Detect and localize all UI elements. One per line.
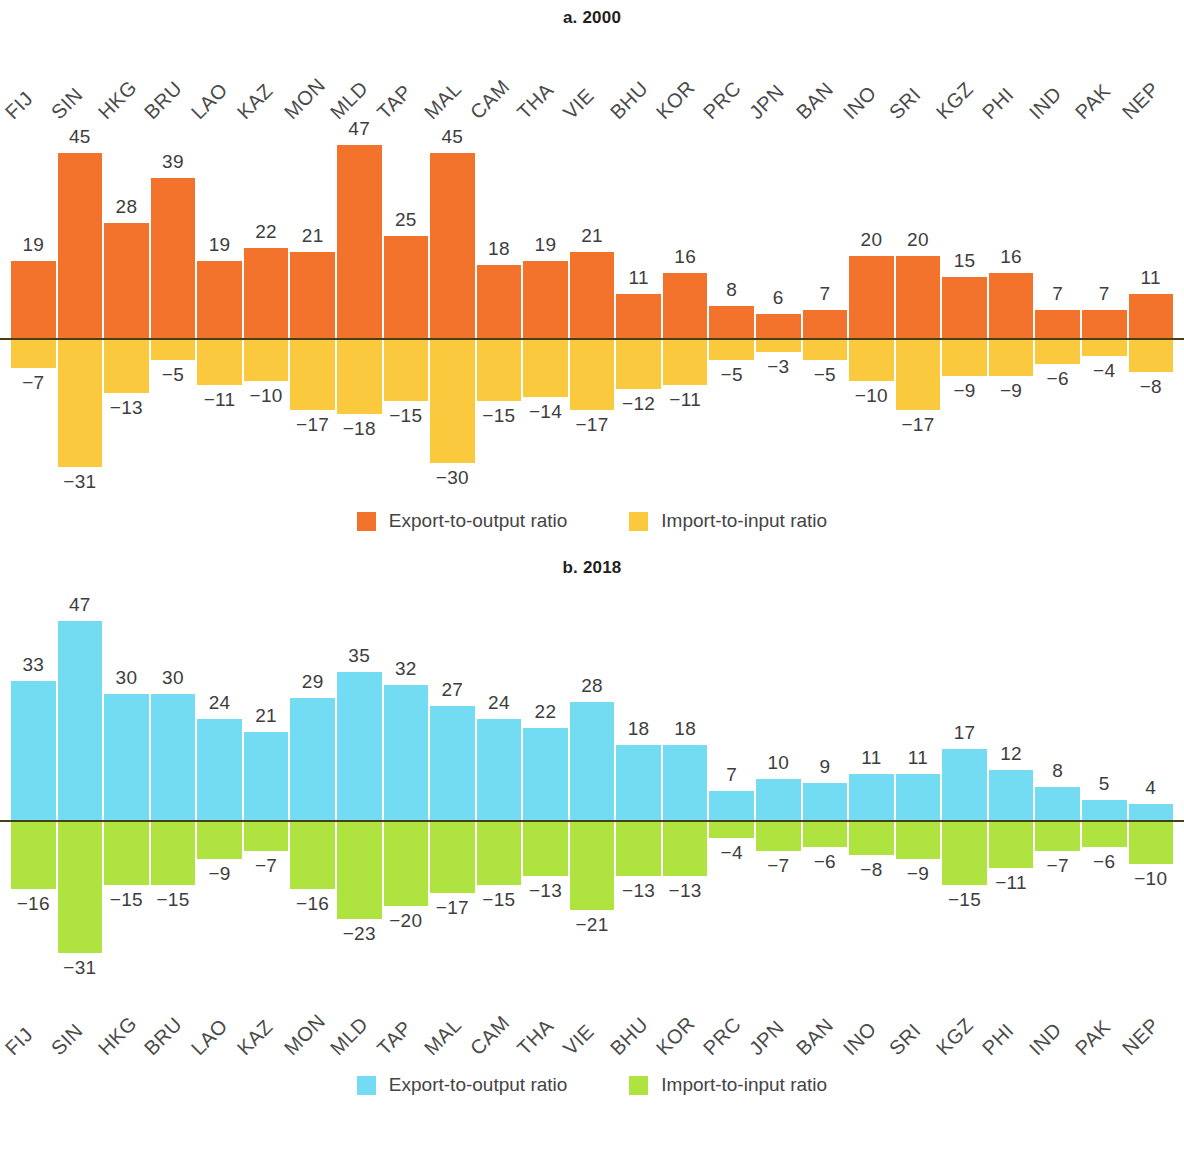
- bar-value-label: 22: [535, 701, 557, 723]
- category-label: KOR: [652, 1012, 700, 1060]
- bar-export-to-output: [337, 145, 382, 339]
- bar-export-to-output: [11, 261, 56, 340]
- panel-b-category-axis: FIJSINHKGBRULAOKAZMONMLDTAPMALCAMTHAVIEB…: [0, 974, 1184, 1060]
- bar-export-to-output: [58, 621, 103, 821]
- bar-value-label: −18: [343, 418, 376, 440]
- bar-value-label: −4: [721, 842, 743, 864]
- bar-import-to-input: [104, 339, 149, 393]
- bar-group: 27−17: [429, 600, 476, 970]
- bar-group: 25−15: [383, 124, 430, 484]
- bar-value-label: 8: [1052, 760, 1063, 782]
- bar-value-label: −17: [436, 897, 469, 919]
- bar-value-label: 28: [116, 196, 138, 218]
- bar-import-to-input: [11, 821, 56, 889]
- bar-value-label: 30: [162, 667, 184, 689]
- bar-value-label: −21: [575, 914, 608, 936]
- bar-export-to-output: [849, 256, 894, 339]
- bar-import-to-input: [942, 339, 987, 376]
- category-label: PAK: [1071, 1015, 1116, 1060]
- bar-export-to-output: [709, 306, 754, 339]
- bar-group: 7−5: [802, 124, 849, 484]
- bar-value-label: 7: [819, 283, 830, 305]
- category-label: BAN: [792, 78, 838, 124]
- bar-import-to-input: [942, 821, 987, 885]
- bar-import-to-input: [663, 821, 708, 876]
- bar-group: 28−13: [103, 124, 150, 484]
- bar-group: 11−8: [1128, 124, 1175, 484]
- panel-b-bars: 33−1647−3130−1530−1524−921−729−1635−2332…: [0, 600, 1184, 970]
- bar-value-label: 29: [302, 671, 324, 693]
- bar-value-label: 6: [773, 287, 784, 309]
- category-label: IND: [1025, 1018, 1067, 1060]
- bar-group: 24−9: [196, 600, 243, 970]
- bar-group: 11−8: [848, 600, 895, 970]
- category-label: MON: [280, 74, 330, 124]
- bar-export-to-output: [430, 153, 475, 339]
- bar-value-label: 21: [581, 225, 603, 247]
- bar-import-to-input: [430, 339, 475, 463]
- bar-import-to-input: [756, 339, 801, 351]
- bar-group: 47−18: [336, 124, 383, 484]
- bar-export-to-output: [523, 728, 568, 822]
- bar-import-to-input: [896, 821, 941, 859]
- bar-export-to-output: [989, 770, 1034, 821]
- legend-item: Import-to-input ratio: [629, 510, 827, 532]
- bar-export-to-output: [151, 694, 196, 822]
- bar-value-label: −15: [110, 889, 143, 911]
- bar-export-to-output: [477, 719, 522, 821]
- bar-value-label: 22: [255, 221, 277, 243]
- legend-swatch-icon: [357, 512, 376, 531]
- panel-2000: a. 2000 FIJSINHKGBRULAOKAZMONMLDTAPMALCA…: [0, 0, 1184, 532]
- bar-import-to-input: [244, 821, 289, 851]
- bar-group: 20−10: [848, 124, 895, 484]
- bar-import-to-input: [58, 821, 103, 953]
- bar-import-to-input: [290, 339, 335, 409]
- bar-value-label: 11: [861, 747, 881, 769]
- bar-value-label: −4: [1093, 360, 1115, 382]
- category-label: NEP: [1118, 78, 1164, 124]
- category-label: BRU: [140, 1013, 187, 1060]
- bar-export-to-output: [290, 698, 335, 821]
- bar-import-to-input: [1129, 339, 1174, 372]
- category-label: HKG: [93, 1012, 141, 1060]
- bar-value-label: −30: [436, 467, 469, 489]
- category-label: SRI: [885, 1019, 926, 1060]
- bar-value-label: 17: [954, 722, 976, 744]
- bar-value-label: 47: [348, 118, 370, 140]
- panel-b-legend: Export-to-output ratioImport-to-input ra…: [0, 1074, 1184, 1096]
- bar-import-to-input: [151, 339, 196, 360]
- bar-import-to-input: [523, 339, 568, 397]
- bar-value-label: 32: [395, 658, 417, 680]
- bar-import-to-input: [384, 821, 429, 906]
- category-label: LAO: [186, 1014, 232, 1060]
- category-label: KGZ: [931, 78, 977, 124]
- bar-group: 5−6: [1081, 600, 1128, 970]
- bar-export-to-output: [803, 310, 848, 339]
- category-label: FIJ: [0, 1023, 37, 1060]
- bar-export-to-output: [384, 685, 429, 821]
- bar-export-to-output: [1035, 787, 1080, 821]
- bar-export-to-output: [709, 791, 754, 821]
- category-label: KAZ: [233, 1015, 278, 1060]
- bar-import-to-input: [616, 821, 661, 876]
- bar-import-to-input: [477, 821, 522, 885]
- bar-export-to-output: [11, 681, 56, 821]
- bar-value-label: −23: [343, 923, 376, 945]
- bar-value-label: 20: [907, 229, 929, 251]
- bar-value-label: −13: [529, 880, 562, 902]
- panel-b-plot: 33−1647−3130−1530−1524−921−729−1635−2332…: [0, 600, 1184, 970]
- category-label: CAM: [466, 1011, 515, 1060]
- bar-group: 12−11: [988, 600, 1035, 970]
- bar-value-label: −8: [1140, 376, 1162, 398]
- bar-export-to-output: [1129, 804, 1174, 821]
- category-label: VIE: [559, 84, 599, 124]
- legend-item: Export-to-output ratio: [357, 510, 567, 532]
- bar-import-to-input: [1082, 821, 1127, 847]
- bar-export-to-output: [756, 779, 801, 822]
- bar-value-label: −9: [907, 863, 929, 885]
- bar-export-to-output: [384, 236, 429, 339]
- bar-import-to-input: [803, 821, 848, 847]
- bar-export-to-output: [244, 248, 289, 339]
- category-label: THA: [512, 1014, 558, 1060]
- bar-group: 11−12: [615, 124, 662, 484]
